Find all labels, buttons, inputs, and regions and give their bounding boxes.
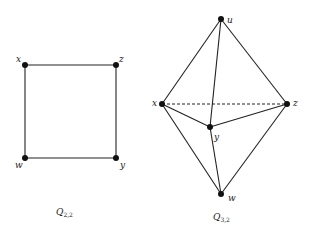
vertex-u: [218, 16, 224, 22]
vertex-label-u: u: [227, 15, 233, 25]
vertex-w: [22, 155, 28, 161]
vertex-label-w: w: [228, 193, 236, 203]
vertex-label-w: w: [15, 160, 23, 170]
graph-diagrams: x z w y Q2,2 u x z y w Q3,2: [0, 0, 309, 237]
caption-q22: Q2,2: [56, 207, 73, 218]
vertex-x: [159, 101, 165, 107]
vertex-label-x: x: [152, 98, 157, 108]
edge-z-w: [221, 104, 287, 194]
edge-x-w: [162, 104, 221, 194]
graph-q22: x z w y Q2,2: [15, 54, 126, 218]
vertex-label-y: y: [119, 160, 126, 170]
graph-q32: u x z y w Q3,2: [152, 15, 298, 223]
vertex-z: [284, 101, 290, 107]
vertex-label-z: z: [118, 54, 124, 64]
edge-y-z: [210, 104, 287, 127]
vertex-w: [218, 191, 224, 197]
edge-u-z: [221, 19, 287, 104]
vertex-label-x: x: [16, 54, 21, 64]
vertex-y: [113, 155, 119, 161]
edge-u-x: [162, 19, 221, 104]
vertex-label-y: y: [213, 132, 220, 142]
vertex-label-z: z: [292, 98, 298, 108]
edge-u-y: [210, 19, 221, 127]
vertex-y: [207, 124, 213, 130]
caption-q32: Q3,2: [213, 212, 230, 223]
vertex-x: [22, 62, 28, 68]
